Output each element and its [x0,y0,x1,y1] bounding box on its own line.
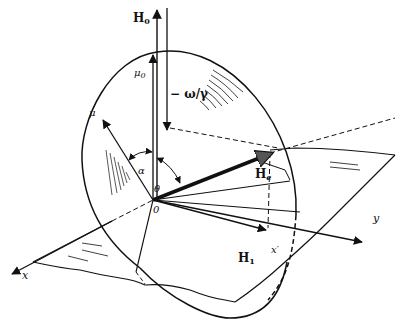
he-label: He [255,167,271,182]
mu-vector [103,120,153,200]
theta-label: θ [154,183,160,194]
y-axis [153,200,362,242]
hatch-line [82,250,108,256]
origin-label: 0 [153,204,160,215]
hatch-line [330,167,360,170]
omega-gamma-label: − ω/γ [170,87,208,101]
xy-plane [33,148,395,302]
h1-label: H1 [238,251,255,266]
alpha-label: α [138,165,145,176]
alpha-arc [129,152,152,160]
mu0-label: μ0 [134,67,146,80]
rotating-frame-diagram: H0 μ0 − ω/γ μ α θ 0 He H1 x′ x y [0,0,406,324]
y-label: y [372,212,380,225]
hatch-line [330,162,358,165]
mu-label: μ [89,107,96,118]
hatch-line [68,256,88,261]
hatch-line [82,243,102,246]
x-label: x [22,269,29,282]
x-prime-label: x′ [271,244,280,255]
theta-arc [157,158,180,183]
radial-lines [136,181,300,272]
x-axis [12,221,112,274]
h0-label: H0 [133,11,150,26]
